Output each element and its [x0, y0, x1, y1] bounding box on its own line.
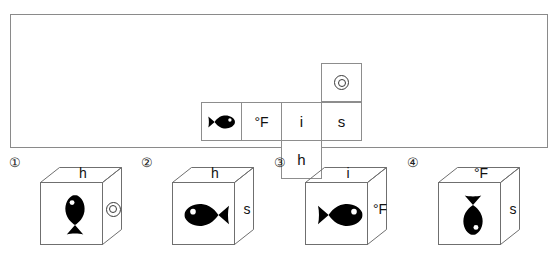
cube-4-right-label: s: [502, 202, 524, 216]
answer-option-2-number: ②: [141, 156, 153, 169]
net-cell-degf: °F: [241, 102, 282, 141]
cube-4-front-face: [444, 186, 502, 244]
cube-diagram-4: °F s: [430, 164, 528, 248]
cube-3-right-label: °F: [369, 202, 391, 216]
fish-icon: [52, 192, 98, 238]
answer-option-4-number: ④: [407, 156, 419, 169]
double-circle-icon: [334, 75, 349, 90]
answer-option-1[interactable]: ① h: [6, 152, 138, 253]
answer-option-2[interactable]: ② h s: [138, 152, 270, 253]
answer-option-3[interactable]: ③ i °F: [271, 152, 403, 253]
cube-4-top-label: °F: [450, 166, 512, 180]
fish-icon: [181, 195, 233, 235]
cube-3-top-label: i: [317, 166, 379, 180]
fish-icon: [450, 192, 496, 238]
cube-1-front-face: [46, 186, 104, 244]
cube-diagram-2: h s: [164, 164, 262, 248]
answer-option-4[interactable]: ④ °F s: [404, 152, 536, 253]
net-cell-i: i: [281, 102, 322, 141]
answer-option-3-number: ③: [274, 156, 286, 169]
net-cell-degf-label: °F: [254, 115, 268, 129]
cube-2-right-label: s: [236, 202, 258, 216]
cube-diagram-3: i °F: [297, 164, 395, 248]
cube-1-top-label: h: [52, 166, 114, 180]
net-cell-s-label: s: [338, 114, 346, 129]
answer-option-1-number: ①: [9, 156, 21, 169]
cube-3-front-face: [311, 186, 369, 244]
cube-diagram-1: h: [32, 164, 130, 248]
net-cell-s: s: [321, 102, 362, 141]
cube-1-right-face: [102, 198, 124, 220]
double-circle-icon: [106, 202, 121, 217]
cube-net-panel: °F i s h: [10, 14, 548, 148]
answer-options: ① h: [0, 152, 560, 253]
cube-net: °F i s h: [201, 63, 361, 141]
cube-2-front-face: [178, 186, 236, 244]
net-cell-i-label: i: [300, 114, 303, 129]
net-cell-fish: [201, 102, 242, 141]
cube-2-top-label: h: [184, 166, 246, 180]
puzzle-stage: °F i s h ①: [0, 0, 560, 253]
fish-icon: [202, 110, 241, 134]
net-cell-circle: [321, 63, 362, 102]
fish-icon: [314, 195, 366, 235]
